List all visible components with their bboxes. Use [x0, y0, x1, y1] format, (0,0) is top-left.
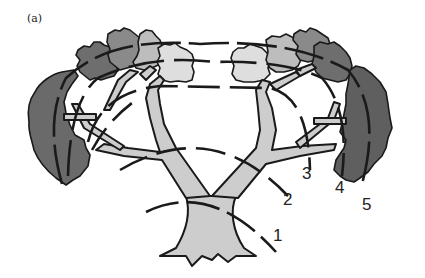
right-main-limb [212, 80, 336, 198]
trunk [160, 196, 256, 266]
panel-label: (a) [27, 12, 42, 25]
shell-label-5: 5 [362, 195, 371, 214]
shell-label-3: 3 [302, 164, 311, 183]
foliage-left-light [157, 43, 194, 82]
tree-diagram: (a) [0, 0, 425, 278]
left-branch-side [64, 114, 96, 120]
right-branch-top [270, 72, 300, 90]
shell-label-2: 2 [283, 190, 292, 209]
shell-label-4: 4 [335, 178, 344, 197]
shell-label-1: 1 [273, 226, 282, 245]
